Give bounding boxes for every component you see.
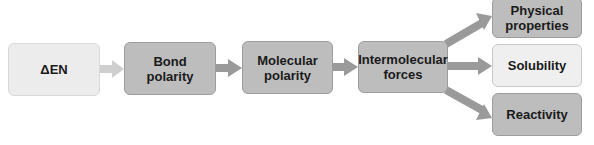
node-label: Solubility bbox=[508, 58, 567, 73]
arrow-to-physical bbox=[446, 13, 492, 44]
node-label: Reactivity bbox=[506, 107, 567, 122]
arrow-bond-to-molecular bbox=[216, 59, 242, 77]
node-label: ΔEN bbox=[40, 62, 67, 77]
node-molecular-polarity: Molecular polarity bbox=[242, 41, 333, 94]
arrow-molecular-to-intermolecular bbox=[333, 58, 358, 76]
node-solubility: Solubility bbox=[492, 44, 582, 87]
node-bond-polarity: Bond polarity bbox=[124, 42, 216, 95]
arrow-to-reactivity bbox=[446, 90, 492, 120]
node-reactivity: Reactivity bbox=[492, 93, 582, 136]
node-label: Molecular polarity bbox=[257, 53, 318, 83]
node-physical-properties: Physical properties bbox=[492, 0, 582, 38]
node-label: Physical properties bbox=[505, 3, 569, 33]
node-label: Intermolecular forces bbox=[358, 52, 448, 82]
node-label: Bond polarity bbox=[147, 54, 194, 84]
node-delta-en: ΔEN bbox=[8, 43, 100, 96]
node-intermolecular-forces: Intermolecular forces bbox=[358, 41, 448, 93]
arrow-to-solubility bbox=[448, 57, 492, 75]
arrow-den-to-bond bbox=[100, 60, 124, 78]
